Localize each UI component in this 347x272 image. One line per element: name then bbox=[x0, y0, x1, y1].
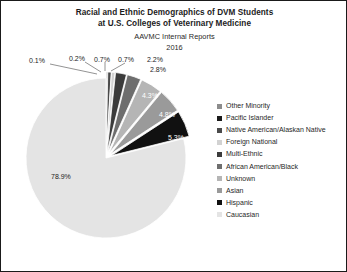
slice-label-african-american: 2.8% bbox=[150, 66, 166, 73]
legend-swatch-icon bbox=[217, 140, 222, 145]
legend-swatch-icon bbox=[217, 200, 222, 205]
slice-label-foreign-national: 0.7% bbox=[118, 56, 134, 63]
legend-item-label: Other Minority bbox=[226, 102, 270, 110]
legend-item[interactable]: Asian bbox=[217, 185, 345, 197]
slice-label-native-american: 0.7% bbox=[94, 56, 110, 63]
legend-item[interactable]: Caucasian bbox=[217, 209, 345, 221]
legend-item-label: Asian bbox=[226, 187, 244, 195]
legend-swatch-icon bbox=[217, 176, 222, 181]
legend-item-label: Caucasian bbox=[226, 211, 259, 219]
legend-swatch-icon bbox=[217, 188, 222, 193]
legend-item[interactable]: Hispanic bbox=[217, 197, 345, 209]
chart-legend: Other MinorityPacific IslanderNative Ame… bbox=[217, 100, 345, 221]
legend-item-label: Pacific Islander bbox=[226, 114, 273, 122]
legend-item[interactable]: Multi-Ethnic bbox=[217, 148, 345, 160]
slice-label-multi-ethnic: 2.2% bbox=[147, 56, 163, 63]
leader-line-foreign-national bbox=[111, 63, 125, 71]
legend-swatch-icon bbox=[217, 104, 222, 109]
legend-item[interactable]: Other Minority bbox=[217, 100, 345, 112]
legend-item[interactable]: Foreign National bbox=[217, 136, 345, 148]
legend-item-label: Foreign National bbox=[226, 138, 277, 146]
leader-line-other-minority bbox=[50, 64, 97, 74]
slice-label-asian: 4.8% bbox=[159, 111, 175, 118]
slice-label-hispanic: 5.3% bbox=[168, 134, 184, 141]
legend-item-label: African American/Black bbox=[226, 163, 298, 171]
legend-swatch-icon bbox=[217, 116, 222, 121]
legend-item-label: Native American/Alaskan Native bbox=[226, 126, 326, 134]
legend-item-label: Multi-Ethnic bbox=[226, 150, 263, 158]
legend-item[interactable]: Unknown bbox=[217, 173, 345, 185]
legend-item[interactable]: Pacific Islander bbox=[217, 112, 345, 124]
pie-slice-group bbox=[26, 72, 189, 238]
chart-figure: Racial and Ethnic Demographics of DVM St… bbox=[0, 0, 347, 272]
legend-swatch-icon bbox=[217, 128, 222, 133]
slice-label-pacific-islander: 0.2% bbox=[69, 55, 85, 62]
legend-swatch-icon bbox=[217, 152, 222, 157]
slice-label-other-minority: 0.1% bbox=[29, 57, 45, 64]
legend-item-label: Hispanic bbox=[226, 199, 253, 207]
legend-item-label: Unknown bbox=[226, 175, 255, 183]
leader-line-pacific-islander bbox=[85, 62, 101, 72]
legend-swatch-icon bbox=[217, 164, 222, 169]
legend-swatch-icon bbox=[217, 212, 222, 217]
legend-item[interactable]: Native American/Alaskan Native bbox=[217, 124, 345, 136]
legend-item[interactable]: African American/Black bbox=[217, 160, 345, 172]
slice-label-unknown: 4.3% bbox=[142, 92, 158, 99]
slice-label-caucasian: 78.9% bbox=[51, 173, 71, 180]
